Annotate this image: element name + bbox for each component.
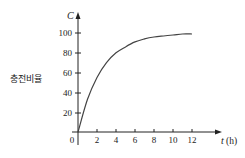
x-tick-label: 10 — [169, 135, 179, 145]
y-tick-label: 60 — [63, 68, 73, 78]
y-axis-arrow-icon — [76, 12, 81, 19]
y-tick-label: 80 — [63, 48, 73, 58]
charge-curve — [78, 34, 192, 132]
x-tick-label: 2 — [95, 135, 100, 145]
x-tick-label: 12 — [188, 135, 197, 145]
x-axis-variable: t — [221, 135, 224, 146]
x-axis-arrow-icon — [215, 130, 222, 135]
y-axis-variable: C — [67, 10, 74, 21]
x-tick-label: 6 — [133, 135, 138, 145]
chart: 20 40 60 80 100 0 2 4 6 8 10 12 C t (h) … — [0, 0, 245, 158]
y-tick-label: 100 — [59, 28, 73, 38]
y-tick-label: 20 — [63, 108, 73, 118]
y-axis-title: 충전비율 — [10, 74, 42, 84]
x-tick-label: 8 — [152, 135, 157, 145]
axes — [72, 18, 218, 145]
origin-label: 0 — [70, 135, 75, 145]
x-tick-label: 4 — [114, 135, 119, 145]
x-axis-unit: (h) — [226, 136, 237, 147]
y-tick-label: 40 — [63, 88, 73, 98]
